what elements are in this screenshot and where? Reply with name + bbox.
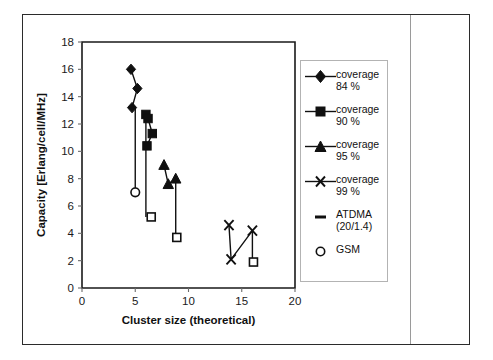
y-tick-label-16: 16 [61,63,74,75]
legend-item-coverage-90: coverage 90 % [301,103,387,138]
y-tick-label-10: 10 [61,145,74,157]
data-point-s1-p3 [143,142,151,150]
legend-label-line2: 90 % [336,116,379,128]
legend-label: coverage 90 % [336,103,379,127]
data-point-s2-p2 [171,173,181,183]
legend-item-coverage-84: coverage 84 % [301,68,387,103]
plot-area: 02468101214161805101520Cluster size (the… [23,15,469,344]
legend-item-coverage-95: coverage 95 % [301,138,387,173]
legend-label: GSM [336,243,360,256]
legend-label-line1: coverage [336,103,379,115]
data-point-s4-p0 [147,213,155,221]
y-tick-label-18: 18 [61,36,74,48]
legend-label-line2: 99 % [336,186,379,198]
cross-icon [305,174,336,189]
data-point-s0-p0 [126,64,135,74]
data-point-s5-p0 [131,188,140,197]
legend-item-gsm: GSM [301,243,387,278]
legend-item-atdma: ATDMA (20/1.4) [301,208,387,243]
x-tick-label-20: 20 [289,295,302,307]
data-point-s0-p1 [133,83,142,93]
legend-label-line1: coverage [336,173,379,185]
legend-label-line2: (20/1.4) [336,221,372,233]
figure-frame: 02468101214161805101520Cluster size (the… [22,14,470,345]
dash-icon [305,209,336,224]
x-tick-label-10: 10 [182,295,195,307]
chart-canvas: 02468101214161805101520Cluster size (the… [23,15,471,346]
legend-label-line1: ATDMA [336,208,372,220]
legend-label-line2: 84 % [336,81,379,93]
x-axis-title: Cluster size (theoretical) [122,314,256,326]
square-icon [305,104,336,119]
legend-label: coverage 84 % [336,68,379,92]
x-tick-label-5: 5 [132,295,138,307]
data-point-s4-p1 [173,233,181,241]
data-point-s1-p2 [148,129,156,137]
y-tick-label-14: 14 [61,91,74,103]
legend-label-line1: coverage [336,138,379,150]
y-tick-label-4: 4 [68,227,75,239]
y-tick-label-6: 6 [68,200,74,212]
chart-legend: coverage 84 % coverage 90 % [300,60,388,282]
legend-label-line1: GSM [336,243,360,255]
legend-label-line1: coverage [336,68,379,80]
legend-item-coverage-99: coverage 99 % [301,173,387,208]
triangle-icon [305,139,336,154]
legend-label: ATDMA (20/1.4) [336,208,372,232]
y-axis-title: Capacity [Erlang/cell/MHz] [35,93,47,237]
y-tick-label-0: 0 [68,282,74,294]
plot-border [82,42,295,288]
diamond-icon [305,69,336,84]
y-tick-label-12: 12 [61,118,74,130]
data-point-s2-p0 [159,160,169,170]
x-tick-label-0: 0 [79,295,85,307]
legend-label-line2: 95 % [336,151,379,163]
data-point-s4-p2 [249,258,257,266]
open-circle-icon [305,244,336,259]
x-tick-label-15: 15 [235,295,248,307]
legend-label: coverage 99 % [336,173,379,197]
data-point-s1-p1 [144,114,152,122]
y-tick-label-8: 8 [68,173,74,185]
legend-label: coverage 95 % [336,138,379,162]
y-tick-label-2: 2 [68,255,74,267]
